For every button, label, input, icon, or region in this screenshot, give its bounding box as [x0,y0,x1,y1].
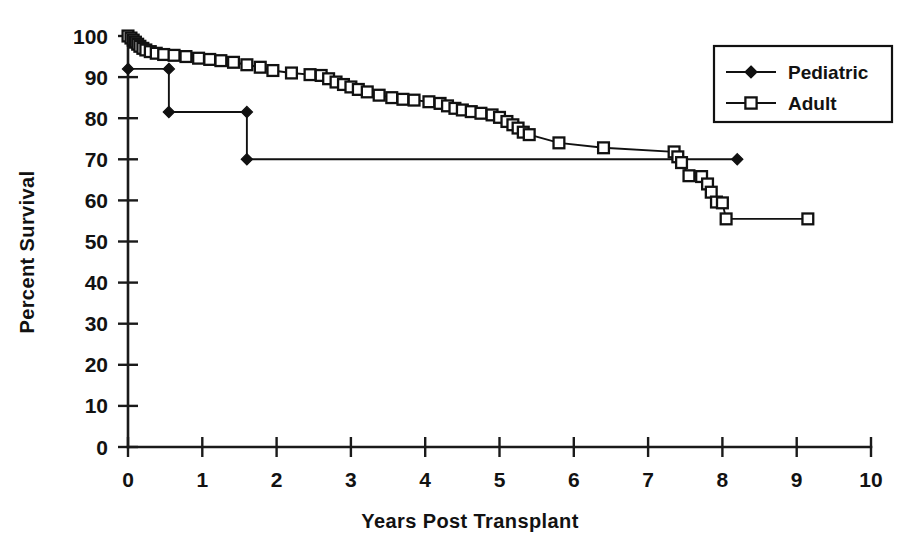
adult-censor-marker [802,213,813,224]
y-tick-label: 50 [85,230,108,253]
legend-label-pediatric: Pediatric [788,62,869,83]
y-tick-label: 10 [85,394,108,417]
adult-censor-marker [228,57,239,68]
adult-censor-marker [215,55,226,66]
adult-censor-marker [386,92,397,103]
series-path-pediatric [128,69,737,159]
pediatric-censor-marker [163,63,174,74]
y-tick-label: 90 [85,66,108,89]
adult-censor-marker [554,137,565,148]
adult-censor-marker [305,69,316,80]
pediatric-censor-marker [732,154,743,165]
x-axis-title: Years Post Transplant [361,510,578,532]
data-series-group [122,31,813,225]
adult-censor-marker [717,197,728,208]
adult-censor-marker [676,157,687,168]
adult-censor-marker [424,96,435,107]
chart-legend: PediatricAdult [714,46,892,122]
adult-censor-marker [241,59,252,70]
pediatric-censor-marker [163,106,174,117]
y-tick-label: 20 [85,353,108,376]
x-tick-label: 7 [642,468,654,491]
y-tick-label: 30 [85,312,108,335]
x-tick-label: 2 [271,468,283,491]
x-axis-ticks: 012345678910 [122,437,883,491]
y-axis-title: Percent Survival [16,170,38,333]
x-tick-label: 3 [345,468,357,491]
x-tick-label: 10 [859,468,882,491]
x-tick-label: 1 [196,468,208,491]
adult-censor-marker [286,68,297,79]
adult-censor-marker [204,54,215,65]
adult-censor-marker [267,65,278,76]
x-tick-label: 9 [791,468,803,491]
x-tick-label: 6 [568,468,580,491]
adult-censor-marker [745,97,756,108]
legend-label-adult: Adult [788,93,837,114]
adult-censor-marker [476,108,487,119]
adult-censor-marker [409,95,420,106]
y-tick-label: 0 [96,436,108,459]
series-adult [123,31,814,225]
x-tick-label: 0 [122,468,134,491]
x-tick-label: 4 [419,468,431,491]
adult-censor-marker [181,51,192,62]
pediatric-censor-marker [241,106,252,117]
adult-censor-marker [193,53,204,64]
y-tick-label: 80 [85,107,108,130]
x-tick-label: 5 [494,468,506,491]
y-tick-label: 40 [85,271,108,294]
kaplan-meier-plot: 0102030405060708090100 012345678910 Perc… [0,0,908,560]
y-tick-label: 100 [73,25,108,48]
adult-censor-marker [398,94,409,105]
pediatric-censor-marker [241,154,252,165]
adult-censor-marker [598,142,609,153]
survival-chart-figure: 0102030405060708090100 012345678910 Perc… [0,0,908,560]
x-tick-label: 8 [717,468,729,491]
adult-censor-marker [524,129,535,140]
adult-censor-marker [255,62,266,73]
y-tick-label: 60 [85,189,108,212]
adult-censor-marker [374,90,385,101]
pediatric-censor-marker [122,63,133,74]
adult-censor-marker [362,86,373,97]
y-tick-label: 70 [85,148,108,171]
adult-censor-marker [721,213,732,224]
adult-censor-marker [158,49,169,60]
adult-censor-marker [169,50,180,61]
adult-censor-marker [684,170,695,181]
